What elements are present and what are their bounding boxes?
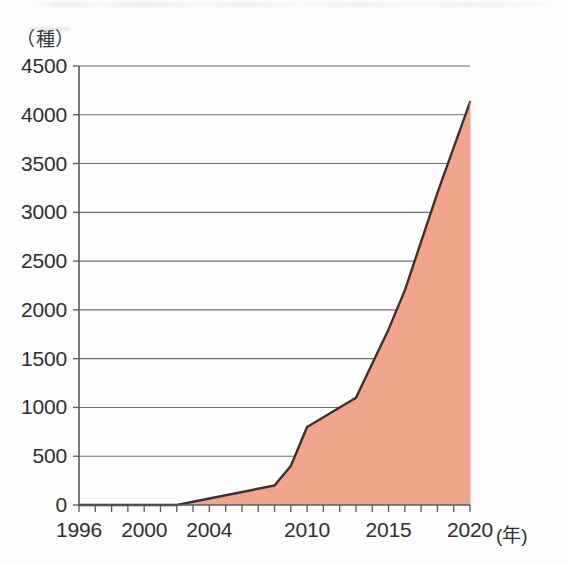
y-axis-tick-label: 4000 xyxy=(1,103,67,127)
y-axis-tick-label: 500 xyxy=(1,444,67,468)
y-axis-tick-label: 2500 xyxy=(1,249,67,273)
x-axis-tick-label: 2015 xyxy=(366,518,412,542)
y-axis-tick-label: 3000 xyxy=(1,200,67,224)
x-axis-tick-label: 2010 xyxy=(284,518,330,542)
area-series-group xyxy=(79,102,470,505)
area-fill xyxy=(79,102,470,505)
y-axis-tick-label: 3500 xyxy=(1,152,67,176)
y-axis-tick-label: 1000 xyxy=(1,395,67,419)
y-axis-tick-label: 0 xyxy=(1,493,67,517)
chart-container: （種） 050010001500200025003000350040004500… xyxy=(0,0,567,565)
x-axis-unit-label: (年) xyxy=(496,520,528,547)
y-axis-tick-label: 2000 xyxy=(1,298,67,322)
x-axis-tick-label: 2004 xyxy=(186,518,232,542)
chart-plot-area xyxy=(0,0,567,565)
y-axis-tick-label: 4500 xyxy=(1,54,67,78)
x-axis-tick-label: 2020 xyxy=(447,518,493,542)
x-axis-tick-label: 2000 xyxy=(121,518,167,542)
x-axis-tick-label: 1996 xyxy=(56,518,102,542)
y-axis-tick-label: 1500 xyxy=(1,347,67,371)
